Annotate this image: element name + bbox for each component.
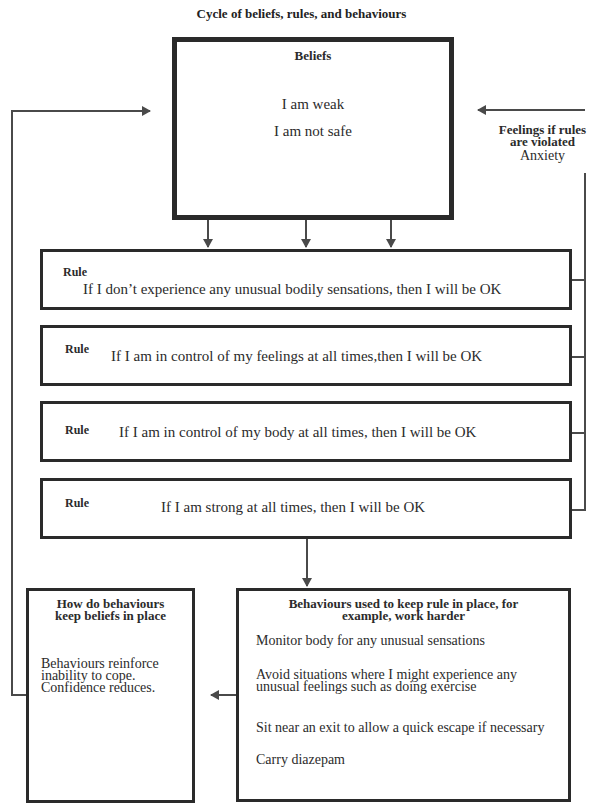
how-heading-line2: keep beliefs in place	[29, 610, 192, 622]
rule-label: Rule	[65, 423, 89, 438]
rule-text: If I am in control of my body at all tim…	[119, 424, 476, 441]
behaviour-item: Sit near an exit to allow a quick escape…	[256, 722, 562, 734]
behaviours-heading: Behaviours used to keep rule in place, f…	[239, 598, 568, 622]
behaviours-box: Behaviours used to keep rule in place, f…	[236, 588, 571, 802]
behaviour-item: Monitor body for any unusual sensations	[256, 635, 562, 647]
belief-item: I am weak	[177, 96, 449, 113]
feelings-vertical-line	[572, 173, 585, 510]
beliefs-heading: Beliefs	[177, 48, 449, 64]
beliefs-box: Beliefs I am weak I am not safe	[172, 37, 454, 220]
rule-box: Rule If I am in control of my feelings a…	[40, 325, 572, 386]
behaviour-item: Avoid situations where I might experienc…	[256, 669, 562, 693]
behaviours-heading-line2: example, work harder	[239, 610, 568, 622]
belief-item: I am not safe	[177, 123, 449, 140]
how-text: Behaviours reinforce inability to cope. …	[41, 658, 186, 694]
feelings-heading-line2: are violated	[482, 136, 603, 148]
feelings-label: Feelings if rules are violated Anxiety	[482, 124, 603, 164]
rule-label: Rule	[65, 342, 89, 357]
feelings-value: Anxiety	[482, 148, 603, 164]
how-heading: How do behaviours keep beliefs in place	[29, 598, 192, 622]
behaviour-item: Carry diazepam	[256, 754, 562, 766]
how-behaviours-box: How do behaviours keep beliefs in place …	[26, 588, 195, 803]
rule-text: If I am strong at all times, then I will…	[161, 499, 425, 516]
rule-box: Rule If I am in control of my body at al…	[40, 401, 572, 462]
rule-label: Rule	[63, 265, 87, 280]
rule-text: If I don’t experience any unusual bodily…	[83, 281, 501, 298]
diagram-title: Cycle of beliefs, rules, and behaviours	[0, 6, 603, 22]
rule-box: Rule If I am strong at all times, then I…	[40, 478, 572, 539]
rule-box: Rule If I don’t experience any unusual b…	[40, 249, 572, 310]
rule-text: If I am in control of my feelings at all…	[111, 348, 482, 365]
rule-label: Rule	[65, 496, 89, 511]
